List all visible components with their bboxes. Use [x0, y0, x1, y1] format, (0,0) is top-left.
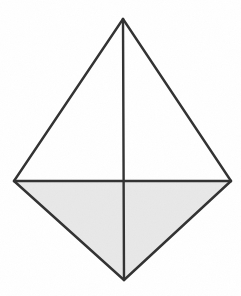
figure-canvas: [0, 0, 241, 296]
geometric-figure: [0, 0, 241, 296]
diagonal-vertical: [123, 19, 124, 280]
